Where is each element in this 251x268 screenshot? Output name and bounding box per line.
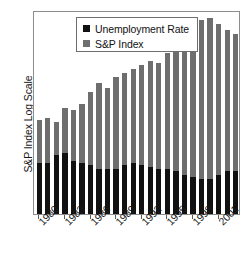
bar-unemployment-rate	[165, 169, 170, 214]
bar-group	[207, 12, 212, 214]
bar-unemployment-rate	[216, 175, 221, 214]
bar-group	[62, 12, 67, 214]
legend-label-sp-index: S&P Index	[95, 39, 144, 49]
bar-group	[54, 12, 59, 214]
legend-item-unemployment-rate: Unemployment Rate	[83, 21, 197, 36]
gray-square-swatch-icon	[83, 40, 90, 47]
bar-group	[233, 12, 238, 214]
bar-group	[45, 12, 50, 214]
bar-group	[216, 12, 221, 214]
legend-label-unemployment-rate: Unemployment Rate	[95, 24, 189, 34]
bar-unemployment-rate	[37, 163, 42, 214]
chart-legend: Unemployment Rate S&P Index	[76, 17, 198, 52]
legend-item-sp-index: S&P Index	[83, 36, 197, 51]
bar-group	[37, 12, 42, 214]
bar-chart: S&P Index Log Scale 19801983198619891992…	[0, 0, 251, 268]
bar-unemployment-rate	[88, 165, 93, 214]
bar-unemployment-rate	[190, 177, 195, 214]
black-square-swatch-icon	[83, 25, 90, 32]
bar-unemployment-rate	[113, 169, 118, 214]
bar-group	[199, 12, 204, 214]
bar-group	[225, 12, 230, 214]
bar-unemployment-rate	[139, 165, 144, 214]
bar-unemployment-rate	[62, 153, 67, 214]
